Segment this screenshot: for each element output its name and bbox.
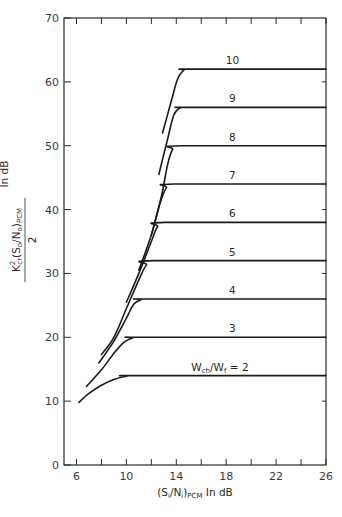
ticks [64,18,326,465]
tick-labels: 61014182226010203040506070 [45,12,333,483]
series-label: 10 [226,54,239,66]
x-axis-label: (Si/Ni)PCM In dB [157,486,233,500]
svg-text:2: 2 [26,237,38,244]
x-tick-label: 6 [73,470,80,483]
y-tick-label: 70 [45,12,59,25]
x-tick-label: 22 [269,470,283,483]
series-label: 9 [229,92,236,104]
y-tick-label: 60 [45,76,59,89]
y-tick-label: 10 [45,395,59,408]
series-curve-3 [86,337,326,386]
chart: 61014182226010203040506070 Wch/Wf = 2345… [0,0,342,517]
y-tick-label: 50 [45,140,59,153]
series-label: Wch/Wf = 2 [191,361,248,375]
series-curve-5 [101,261,326,355]
series-curve-10 [163,69,326,133]
y-tick-label: 30 [45,267,59,280]
y-tick-label: 0 [52,459,59,472]
series-label: 7 [229,169,236,181]
series-label: 4 [229,284,236,296]
x-tick-label: 14 [169,470,183,483]
curves [79,69,326,402]
y-axis-label: K2cr(So/No)PCM 2 In dB [0,161,38,282]
series-curve-4 [99,299,326,363]
svg-text:K2cr(So/No)PCM: K2cr(So/No)PCM [9,208,24,272]
svg-text:In dB: In dB [0,161,10,188]
series-label: 6 [229,207,236,219]
plot-frame [64,18,326,465]
y-tick-label: 20 [45,331,59,344]
series-label: 8 [229,131,236,143]
series-label: 3 [229,322,236,334]
x-tick-label: 10 [119,470,133,483]
series-curve-W [79,376,326,403]
y-tick-label: 40 [45,204,59,217]
x-tick-label: 18 [219,470,233,483]
series-curve-9 [159,107,326,174]
series-label: 5 [229,246,236,258]
series-labels: Wch/Wf = 2345678910 [191,54,248,375]
series-curve-6 [126,222,326,302]
axes [64,18,326,465]
x-tick-label: 26 [319,470,333,483]
